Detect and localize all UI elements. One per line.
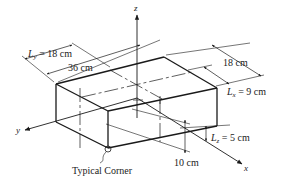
- width-18-label: 18 cm: [223, 57, 248, 68]
- box-diagram: z y x Ly = 18 cm 36 cm 18 cm Lx = 9 cm L…: [0, 0, 285, 185]
- y-axis: [25, 98, 137, 130]
- lz-dimension-label: Lz = 5 cm: [210, 132, 250, 145]
- length-36-label: 36 cm: [68, 62, 93, 73]
- z-axis-label: z: [133, 3, 138, 13]
- ly-dimension-label: Ly = 18 cm: [27, 48, 72, 61]
- x-axis: [137, 98, 242, 164]
- typical-corner-leader: [100, 152, 106, 163]
- typical-corner-label: Typical Corner: [72, 165, 133, 176]
- lx-dimension-label: Lx = 9 cm: [226, 86, 266, 99]
- y-axis-label: y: [15, 125, 20, 135]
- height-10-label: 10 cm: [174, 157, 199, 168]
- x-axis-label: x: [243, 163, 248, 173]
